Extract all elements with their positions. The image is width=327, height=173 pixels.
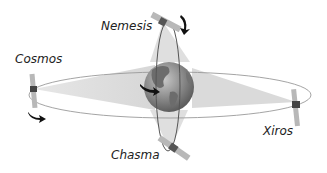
orbit-diagram-graphic (0, 0, 327, 173)
label-chasma: Chasma (111, 148, 160, 162)
label-xiros: Xiros (263, 124, 293, 138)
label-nemesis: Nemesis (101, 19, 152, 33)
arrow-cosmos-icon (28, 112, 46, 123)
satellite-cosmos[interactable] (30, 74, 38, 108)
arrow-nemesis-icon (180, 15, 190, 35)
orbit-diagram: Nemesis Cosmos Xiros Chasma (0, 0, 327, 173)
earth-globe-icon (144, 62, 194, 112)
satellite-xiros[interactable] (291, 89, 300, 126)
label-cosmos: Cosmos (15, 52, 62, 66)
